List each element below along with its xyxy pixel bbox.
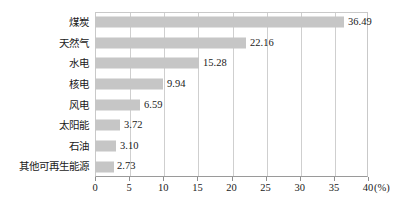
category-label: 水电 xyxy=(0,53,89,74)
x-tick-label: 25 xyxy=(256,182,276,193)
x-tick-label: 5 xyxy=(119,182,139,193)
bar-row: 煤炭 36.49 xyxy=(0,12,414,33)
category-label: 煤炭 xyxy=(0,12,89,33)
bar-solar xyxy=(95,120,120,131)
value-label: 3.10 xyxy=(120,136,138,157)
value-label: 6.59 xyxy=(144,95,162,116)
bar-hydro xyxy=(95,58,199,69)
x-axis-unit-label: (%) xyxy=(374,182,390,193)
x-tick-label: 30 xyxy=(290,182,310,193)
tick-mark xyxy=(368,177,369,181)
bar-row: 石油 3.10 xyxy=(0,136,414,157)
x-tick-label: 0 xyxy=(85,182,105,193)
tick-mark xyxy=(129,177,130,181)
tick-mark xyxy=(232,177,233,181)
value-label: 15.28 xyxy=(203,53,227,74)
value-label: 22.16 xyxy=(250,33,274,54)
x-tick-label: 20 xyxy=(222,182,242,193)
tick-mark xyxy=(334,177,335,181)
bar-other-renewables xyxy=(95,161,114,172)
tick-mark xyxy=(95,177,96,181)
tick-mark xyxy=(300,177,301,181)
bar-oil xyxy=(95,141,116,152)
bar-wind xyxy=(95,99,140,110)
bar-natural-gas xyxy=(95,37,246,48)
x-tick-label: 15 xyxy=(187,182,207,193)
value-label: 36.49 xyxy=(348,12,372,33)
category-label: 太阳能 xyxy=(0,115,89,136)
value-label: 3.72 xyxy=(124,115,142,136)
tick-mark xyxy=(197,177,198,181)
tick-mark xyxy=(163,177,164,181)
category-label: 石油 xyxy=(0,136,89,157)
bar-chart: 煤炭 36.49 天然气 22.16 水电 15.28 核电 9.94 风电 6… xyxy=(0,0,414,211)
bar-row: 核电 9.94 xyxy=(0,74,414,95)
bar-row: 风电 6.59 xyxy=(0,95,414,116)
bar-row: 太阳能 3.72 xyxy=(0,115,414,136)
bar-row: 水电 15.28 xyxy=(0,53,414,74)
category-label: 风电 xyxy=(0,95,89,116)
x-tick-label: 10 xyxy=(153,182,173,193)
category-label: 核电 xyxy=(0,74,89,95)
bar-row: 天然气 22.16 xyxy=(0,33,414,54)
bar-nuclear xyxy=(95,79,163,90)
value-label: 2.73 xyxy=(117,156,135,177)
tick-mark xyxy=(266,177,267,181)
x-axis: 0 5 10 15 20 25 30 35 40 (%) xyxy=(0,177,414,211)
bar-rows: 煤炭 36.49 天然气 22.16 水电 15.28 核电 9.94 风电 6… xyxy=(0,12,414,177)
x-tick-label: 35 xyxy=(324,182,344,193)
category-label: 其他可再生能源 xyxy=(0,156,89,177)
category-label: 天然气 xyxy=(0,33,89,54)
bar-row: 其他可再生能源 2.73 xyxy=(0,156,414,177)
value-label: 9.94 xyxy=(167,74,185,95)
bar-coal xyxy=(95,17,344,28)
